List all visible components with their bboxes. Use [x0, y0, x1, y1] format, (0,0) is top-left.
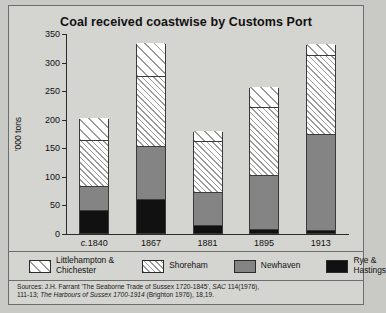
bar-segment-shoreham — [137, 77, 165, 147]
bar-segment-rye — [137, 200, 165, 233]
bar-segment-rye — [250, 230, 278, 233]
y-tick-mark — [62, 234, 66, 235]
y-tick-label: 250 — [45, 86, 60, 96]
legend-item-newhaven[interactable]: Newhaven — [234, 260, 301, 273]
y-axis-title: '000 tons — [13, 117, 23, 151]
bar-segment-littlehampton — [194, 131, 222, 141]
x-axis-line — [66, 234, 349, 235]
y-tick-mark — [62, 120, 66, 121]
y-tick-label: 50 — [50, 200, 60, 210]
chart-legend: Littlehampton & Chichester Shoreham Newh… — [9, 252, 363, 280]
chart-title: Coal received coastwise by Customs Port — [9, 15, 363, 29]
x-tick-label: 1913 — [291, 238, 351, 248]
sources-note: Sources: J.H. Farrant 'The Seaborne Trad… — [17, 283, 357, 299]
bar-segment-newhaven — [250, 176, 278, 230]
plot-area: '000 tons 050100150200250300350 c.184018… — [66, 34, 349, 234]
bar-segment-rye — [194, 226, 222, 233]
bar-segment-newhaven — [194, 193, 222, 226]
y-tick-label: 300 — [45, 58, 60, 68]
y-tick-mark — [62, 177, 66, 178]
y-tick-label: 0 — [55, 229, 60, 239]
bar-segment-littlehampton — [307, 44, 335, 55]
y-tick-label: 350 — [45, 29, 60, 39]
y-tick-mark — [62, 148, 66, 149]
sources-line2-part3: (Brighton 1976), 18,19. — [145, 291, 214, 298]
bar-c1840[interactable] — [79, 119, 109, 234]
legend-swatch-icon-littlehampton — [29, 260, 51, 273]
bar-segment-littlehampton — [80, 118, 108, 141]
legend-label: Shoreham — [169, 261, 208, 271]
x-tick-label: 1881 — [178, 238, 238, 248]
bar-segment-shoreham — [194, 142, 222, 193]
legend-item-shoreham[interactable]: Shoreham — [142, 260, 208, 273]
sources-line1-part1: Sources: J.H. Farrant 'The Seaborne Trad… — [17, 283, 212, 290]
sources-line2-italic: The Harbours of Sussex 1700-1914 — [40, 291, 144, 298]
y-tick-mark — [62, 91, 66, 92]
legend-label: Littlehampton & Chichester — [56, 256, 114, 275]
legend-item-rye-hastings[interactable]: Rye & Hastings — [326, 256, 386, 275]
y-tick-label: 150 — [45, 143, 60, 153]
bar-segment-littlehampton — [250, 87, 278, 108]
x-tick-label: 1867 — [121, 238, 181, 248]
bar-segment-newhaven — [307, 135, 335, 232]
bar-1881[interactable] — [193, 132, 223, 234]
bar-1895[interactable] — [249, 88, 279, 234]
bar-1867[interactable] — [136, 44, 166, 234]
legend-swatch-icon-newhaven — [234, 260, 256, 273]
legend-label: Newhaven — [261, 261, 301, 271]
sources-divider — [9, 280, 363, 281]
y-tick-mark — [62, 34, 66, 35]
bar-segment-shoreham — [80, 141, 108, 187]
y-tick-mark — [62, 63, 66, 64]
legend-item-littlehampton-chichester[interactable]: Littlehampton & Chichester — [29, 256, 114, 275]
sources-line1-part3: 114(1976), — [226, 283, 259, 290]
x-tick-label: c.1840 — [64, 238, 124, 248]
y-axis-line — [66, 34, 67, 234]
bar-segment-littlehampton — [137, 43, 165, 77]
y-tick-label: 100 — [45, 172, 60, 182]
y-tick-mark — [62, 205, 66, 206]
bar-segment-shoreham — [250, 108, 278, 175]
bar-segment-newhaven — [137, 147, 165, 200]
y-tick-label: 200 — [45, 115, 60, 125]
legend-label: Rye & Hastings — [353, 256, 386, 275]
chart-figure: Coal received coastwise by Customs Port … — [8, 5, 364, 305]
bar-segment-rye — [80, 211, 108, 233]
sources-line2-part1: 111-13; — [17, 291, 40, 298]
bar-segment-rye — [307, 231, 335, 233]
legend-swatch-icon-rye — [326, 260, 348, 273]
bar-1913[interactable] — [306, 45, 336, 234]
sources-line1-italic: SAC — [212, 283, 226, 290]
bar-segment-shoreham — [307, 56, 335, 135]
legend-swatch-icon-shoreham — [142, 260, 164, 273]
x-tick-label: 1895 — [234, 238, 294, 248]
bar-segment-newhaven — [80, 187, 108, 212]
